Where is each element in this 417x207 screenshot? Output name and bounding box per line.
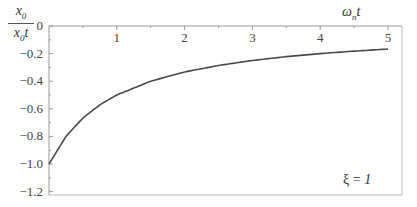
x-tick-label: 4 xyxy=(317,30,324,45)
x-tick-label: 2 xyxy=(181,30,188,45)
y-tick-label: 0 xyxy=(37,18,44,33)
x-tick-label: 1 xyxy=(114,30,121,45)
y-axis-label: x0 x0t xyxy=(6,4,36,43)
y-tick-label: −1.0 xyxy=(19,156,43,171)
y-tick-label: −0.8 xyxy=(19,128,43,143)
y-tick-label: −0.6 xyxy=(19,101,43,116)
x-tick-label: 5 xyxy=(385,30,392,45)
damping-ratio-annotation: ξ = 1 xyxy=(343,172,371,188)
x-axis-label: ωnt xyxy=(342,4,360,22)
y-tick-label: −1.2 xyxy=(19,184,43,199)
response-curve xyxy=(49,49,388,164)
x-tick-label: 3 xyxy=(249,30,256,45)
y-tick-label: −0.2 xyxy=(19,46,43,61)
y-tick-label: −0.4 xyxy=(19,73,43,88)
